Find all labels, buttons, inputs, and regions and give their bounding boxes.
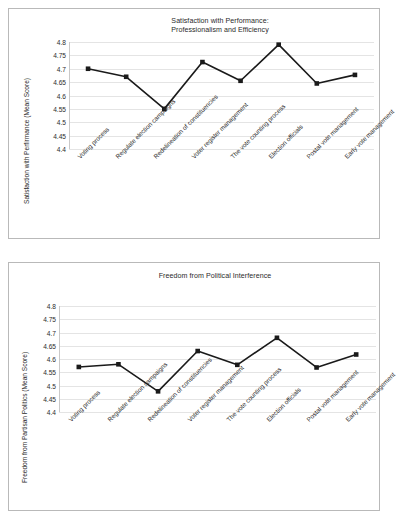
y-axis-tick-label: 4.75 bbox=[43, 316, 56, 323]
y-axis-tick-label: 4.75 bbox=[53, 52, 66, 59]
data-point-marker bbox=[314, 365, 319, 370]
data-point-marker bbox=[275, 336, 280, 341]
y-axis-tick-label: 4.45 bbox=[53, 132, 66, 139]
data-point-marker bbox=[156, 389, 161, 394]
chart-title: Freedom from Political Interference bbox=[59, 272, 371, 281]
data-point-marker bbox=[276, 42, 281, 47]
y-axis-tick-label: 4.6 bbox=[47, 356, 56, 363]
y-axis-tick-label: 4.55 bbox=[43, 369, 56, 376]
y-axis-tick-label: 4.55 bbox=[53, 105, 66, 112]
y-axis-tick-label: 4.5 bbox=[57, 119, 66, 126]
y-axis-tick-label: 4.7 bbox=[57, 65, 66, 72]
data-point-marker bbox=[238, 78, 243, 83]
y-axis-tick-label: 4.8 bbox=[57, 39, 66, 46]
y-axis-tick-label: 4.7 bbox=[47, 329, 56, 336]
data-point-marker bbox=[200, 60, 205, 65]
chart-panel-satisfaction-with-performance: Satisfaction with Performance: Professio… bbox=[8, 8, 380, 239]
data-point-marker bbox=[77, 365, 82, 370]
y-axis-tick-label: 4.4 bbox=[47, 409, 56, 416]
gridline bbox=[69, 149, 374, 150]
data-point-marker bbox=[195, 349, 200, 354]
data-point-marker bbox=[353, 73, 358, 78]
y-axis-title: Satisfaction with Perfirmance (Mean Scor… bbox=[23, 78, 30, 204]
y-axis-tick-label: 4.45 bbox=[43, 395, 56, 402]
y-axis-tick-label: 4.6 bbox=[57, 92, 66, 99]
data-point-marker bbox=[116, 362, 121, 367]
chart-panel-freedom-from-political-interference: Freedom from Political Interference Free… bbox=[8, 262, 380, 511]
data-point-marker bbox=[86, 66, 91, 71]
y-axis-tick-label: 4.65 bbox=[53, 79, 66, 86]
plot-area: 4.84.754.74.654.64.554.54.454.4Voting pr… bbox=[69, 42, 374, 149]
y-axis-tick-label: 4.4 bbox=[57, 146, 66, 153]
gridline bbox=[59, 412, 376, 413]
data-point-marker bbox=[354, 352, 359, 357]
y-axis-tick-label: 4.8 bbox=[47, 303, 56, 310]
chart-title: Satisfaction with Performance: Professio… bbox=[69, 17, 371, 36]
y-axis-tick-label: 4.5 bbox=[47, 382, 56, 389]
y-axis-tick-label: 4.65 bbox=[43, 342, 56, 349]
data-point-marker bbox=[315, 81, 320, 86]
y-axis-title: Freedom from Partisan Politics (Mean Sco… bbox=[21, 352, 28, 483]
data-point-marker bbox=[124, 74, 129, 79]
plot-area: 4.84.754.74.654.64.554.54.454.4Voting pr… bbox=[59, 306, 376, 412]
